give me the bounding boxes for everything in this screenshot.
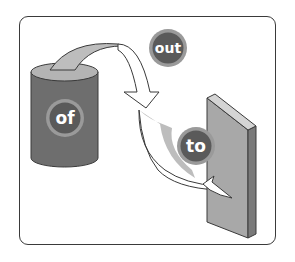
panel-target — [203, 94, 256, 238]
badge-to: to — [177, 127, 215, 165]
badge-out: out — [149, 29, 187, 67]
diagram-canvas: of out to — [0, 0, 295, 262]
badge-of-label: of — [55, 108, 75, 128]
badge-out-label: out — [155, 40, 182, 56]
badge-of: of — [46, 99, 84, 137]
badge-to-label: to — [186, 136, 206, 156]
